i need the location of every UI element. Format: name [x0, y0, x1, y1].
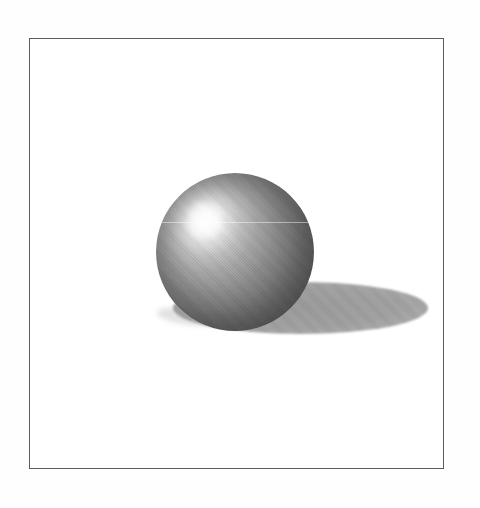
- specular-highlight: [183, 198, 227, 242]
- sphere: [156, 173, 314, 331]
- scan-artifact-line: [156, 222, 314, 223]
- page-background: [0, 0, 480, 508]
